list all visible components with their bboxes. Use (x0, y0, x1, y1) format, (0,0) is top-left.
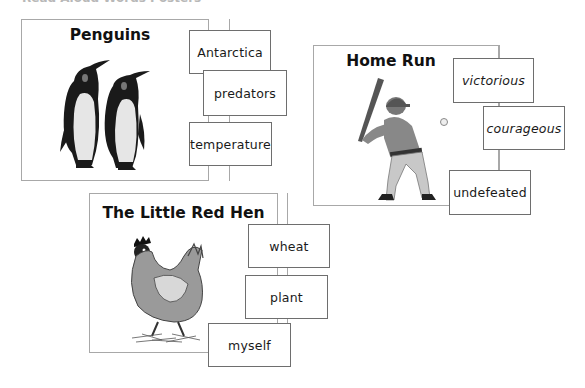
penguins-illustration (44, 60, 164, 175)
word-undefeated[interactable]: undefeated (449, 170, 531, 215)
word-courageous[interactable]: courageous (483, 106, 565, 150)
word-victorious[interactable]: victorious (453, 58, 534, 103)
word-predators[interactable]: predators (203, 70, 287, 116)
word-wheat[interactable]: wheat (248, 224, 330, 268)
penguins-title: Penguins (12, 26, 208, 44)
word-antarctica[interactable]: Antarctica (189, 30, 271, 74)
little-red-hen-title: The Little Red Hen (90, 204, 277, 222)
penguins-card: Penguins (21, 19, 209, 181)
word-plant[interactable]: plant (245, 275, 328, 319)
baseball-icon (439, 117, 449, 127)
baseball-batter-illustration (344, 76, 454, 206)
hen-illustration (112, 230, 222, 345)
word-myself[interactable]: myself (208, 323, 291, 367)
word-temperature[interactable]: temperature (189, 122, 272, 166)
top-caption: Read Aloud Words Posters (22, 0, 201, 5)
